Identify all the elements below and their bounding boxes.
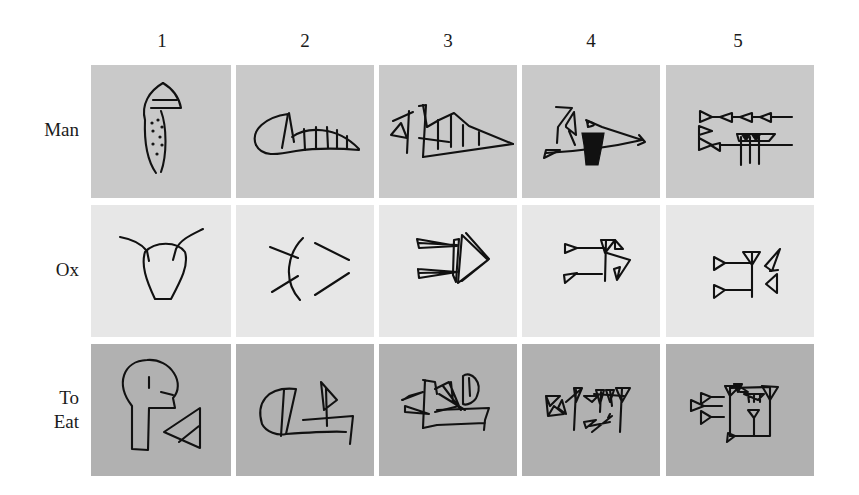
cell-ox-1 <box>91 205 231 337</box>
column-header-2: 2 <box>285 30 325 52</box>
middle-cuneiform-ox-icon <box>522 205 660 337</box>
cell-ox-2 <box>236 205 374 337</box>
late-cuneiform-ox-icon <box>666 205 814 337</box>
row-label-man: Man <box>20 118 79 142</box>
cell-eat-2 <box>236 344 374 476</box>
rotated-eat-sign-icon <box>236 344 374 476</box>
row-label-to-eat-line1: To <box>20 386 79 410</box>
rotated-man-sign-icon <box>236 65 374 198</box>
middle-cuneiform-man-icon <box>522 65 660 198</box>
cell-man-5 <box>666 65 814 198</box>
early-cuneiform-man-icon <box>379 65 517 198</box>
cell-eat-3 <box>379 344 517 476</box>
cell-man-3 <box>379 65 517 198</box>
late-cuneiform-eat-icon <box>666 344 814 476</box>
row-label-ox: Ox <box>20 258 79 282</box>
column-header-5: 5 <box>718 30 758 52</box>
cell-man-2 <box>236 65 374 198</box>
cell-ox-4 <box>522 205 660 337</box>
column-header-1: 1 <box>142 30 182 52</box>
rotated-ox-sign-icon <box>236 205 374 337</box>
cell-ox-5 <box>666 205 814 337</box>
row-label-to-eat: To Eat <box>20 386 79 434</box>
cell-man-1 <box>91 65 231 198</box>
cell-man-4 <box>522 65 660 198</box>
pictograph-man-head-icon <box>91 65 231 198</box>
early-cuneiform-ox-icon <box>379 205 517 337</box>
early-cuneiform-eat-icon <box>379 344 517 476</box>
cell-eat-5 <box>666 344 814 476</box>
row-label-to-eat-line2: Eat <box>20 410 79 434</box>
late-cuneiform-man-icon <box>666 65 814 198</box>
middle-cuneiform-eat-icon <box>522 344 660 476</box>
cell-eat-1 <box>91 344 231 476</box>
pictograph-head-and-bowl-icon <box>91 344 231 476</box>
cell-eat-4 <box>522 344 660 476</box>
column-header-3: 3 <box>428 30 468 52</box>
pictograph-ox-head-icon <box>91 205 231 337</box>
cell-ox-3 <box>379 205 517 337</box>
column-header-4: 4 <box>571 30 611 52</box>
